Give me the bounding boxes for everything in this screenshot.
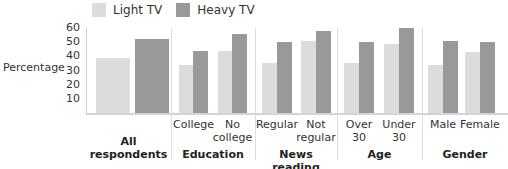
legend: Light TV Heavy TV (92, 3, 269, 17)
legend-label-heavy: Heavy TV (197, 3, 254, 17)
legend-item-heavy-tv: Heavy TV (176, 3, 254, 17)
bar-light-male (428, 65, 443, 113)
subcategory-label-line1: Female (456, 118, 504, 131)
group-label-line1: All (86, 135, 171, 148)
bar-heavy-over-30 (359, 42, 374, 113)
group-label: Age (337, 148, 422, 161)
y-axis-label: Percentage (3, 61, 65, 74)
legend-label-light: Light TV (113, 3, 162, 17)
bar-light-not-regular (301, 41, 316, 113)
subcategory-label-line1: No (209, 118, 257, 131)
y-tick-label: 10 (58, 93, 80, 105)
group-label-line1: Education (171, 148, 255, 161)
group-label: Gender (422, 148, 508, 161)
subcategory-label: Nocollege (209, 118, 257, 144)
group-separator (171, 28, 172, 160)
bar-heavy-under-30 (399, 28, 414, 113)
subcategory-label-line2: regular (292, 131, 340, 144)
y-tick-label: 30 (58, 65, 80, 77)
x-axis-baseline (86, 113, 508, 115)
subcategory-label: Under30 (375, 118, 423, 144)
bar-heavy-no-college (232, 34, 247, 113)
group-label: News reading (255, 148, 337, 169)
subcategory-label-line2: 30 (375, 131, 423, 144)
bar-heavy-not-regular (316, 31, 331, 113)
y-axis-line (86, 28, 87, 115)
y-tick-label: 60 (58, 22, 80, 34)
bar-light-regular (262, 63, 277, 113)
bar-light-college (179, 65, 194, 113)
subcategory-label-line2: college (209, 131, 257, 144)
bar-light-over-30 (344, 63, 359, 113)
legend-swatch-light (92, 3, 106, 17)
bar-heavy-college (193, 51, 208, 113)
bar-light-no-college (218, 51, 233, 113)
bar-heavy-regular (277, 42, 292, 113)
group-label: Education (171, 148, 255, 161)
group-label-line1: Age (337, 148, 422, 161)
y-tick-label: 20 (58, 79, 80, 91)
bar-heavy-all-respondents (135, 39, 169, 113)
legend-item-light-tv: Light TV (92, 3, 162, 17)
group-label-line1: News reading (255, 148, 337, 169)
subcategory-label-line1: Not (292, 118, 340, 131)
bar-light-all-respondents (96, 58, 130, 113)
group-label-line2: respondents (86, 148, 171, 161)
subcategory-label-line1: Under (375, 118, 423, 131)
group-label-line1: Gender (422, 148, 508, 161)
legend-swatch-heavy (176, 3, 190, 17)
y-tick-label: 50 (58, 36, 80, 48)
group-label: Allrespondents (86, 135, 171, 161)
subcategory-label: Notregular (292, 118, 340, 144)
subcategory-label: Female (456, 118, 504, 131)
bar-heavy-female (480, 42, 495, 113)
y-tick-label: 40 (58, 50, 80, 62)
bar-light-female (465, 52, 480, 113)
bar-light-under-30 (384, 44, 399, 113)
bar-heavy-male (443, 41, 458, 113)
